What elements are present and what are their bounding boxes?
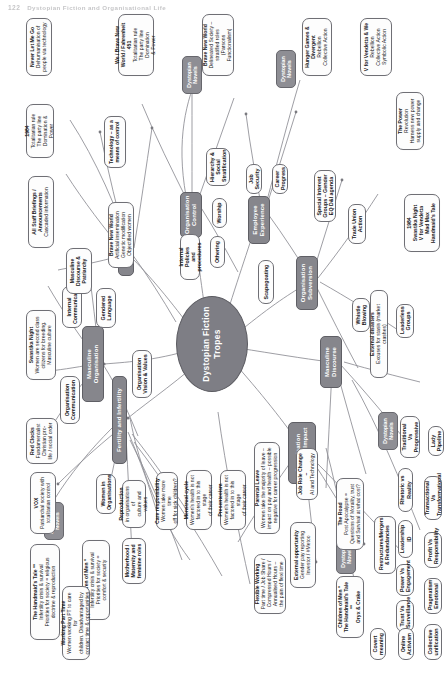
leaf-title: All Staff Briefings / Announcements — [31, 189, 43, 235]
leaf-flexible-working[interactable]: Flexible Working Part time / Job Share /… — [254, 554, 286, 614]
mid-trade-union-action[interactable]: Trade Union Action — [348, 204, 366, 244]
leaf-title: Masculine Discourse & Patriarchy — [69, 256, 87, 286]
mid-label: Rhetoric vs Reality — [399, 472, 411, 508]
leaf-masculine-discourse-patriarchy[interactable]: Masculine Discourse & Patriarchy — [66, 248, 92, 294]
leaf-brave-new-world-delineated-society[interactable]: Brave New World Delineated Society – str… — [202, 14, 234, 76]
leaf-title: Children of Men * The Handmaid's Tale **… — [337, 582, 361, 632]
mid-job-security[interactable]: Job Security — [246, 164, 262, 194]
mid-label: Trust Vs Surveillance — [399, 604, 411, 628]
mid-profit-vs-responsibility[interactable]: Profit Vs Responsibility — [424, 532, 442, 568]
branch-fertility-and-infertility[interactable]: Fertility and Infertility — [112, 376, 127, 464]
leaf-swastika-night[interactable]: Swastika Night Women are second class ci… — [26, 310, 56, 380]
mid-label: Hierarchy & Social Stratification — [209, 152, 227, 182]
chip-label: Dystopian Novels — [186, 60, 198, 90]
branch-masculine-discourse[interactable]: Masculine Discourse — [320, 336, 342, 388]
mid-covert-meaning[interactable]: Covert meaning — [370, 628, 386, 660]
chip-dystopian-novels-discourse[interactable]: Dystopian Novels — [378, 412, 398, 450]
mid-women-in-organisations[interactable]: Women in Organisations — [96, 474, 116, 514]
mid-rhetoric-vs-reality[interactable]: Rhetoric vs Reality — [398, 468, 413, 512]
mid-online-activism[interactable]: Online Activism — [398, 628, 414, 660]
mid-transactional-vs-transformational[interactable]: Transactional Vs Transformational — [424, 476, 442, 520]
leaf-menstrual-cycle[interactable]: Menstrual cycle Women's health is not fa… — [186, 470, 212, 530]
leaf-care-responsibility[interactable]: Care responsibility Women take more time… — [156, 472, 178, 530]
mid-whistle-blowing[interactable]: Whistle Blowing — [352, 298, 370, 332]
leaf-title: 1984 Swastika Night V for Vendetta Mad M… — [406, 203, 436, 243]
leaf-working-part-time[interactable]: Working Part Time Women working PT to ca… — [62, 586, 90, 660]
leaf-the-road[interactable]: The Road Post Apocalypse = Questions of … — [336, 478, 364, 550]
mid-label: Power Vs Engagement — [399, 568, 411, 592]
leaf-the-power[interactable]: The Power Revolution Harness new power s… — [396, 92, 424, 150]
mid-power-vs-engagement[interactable]: Power Vs Engagement — [396, 564, 414, 596]
leaf-all-staff-briefings[interactable]: All Staff Briefings / Announcements Casc… — [28, 176, 54, 248]
mid-career-progress[interactable]: Career Progress — [272, 164, 288, 194]
mid-hierarchy-social-stratification[interactable]: Hierarchy & Social Stratification — [206, 148, 230, 186]
mid-leaderless-groups[interactable]: Leaderless Groups — [396, 304, 414, 338]
mid-lady-pipeline[interactable]: Lady Pipeline — [428, 426, 444, 456]
leaf-parental-leave[interactable]: Parental Leave Women take the majority o… — [254, 442, 280, 534]
mid-othering[interactable]: Othering — [210, 236, 225, 268]
leaf-presenteeism[interactable]: Presenteeism Women's health is not facto… — [220, 470, 246, 530]
chip-dystopian-novels-subversion[interactable]: Dystopian Novels — [276, 50, 296, 88]
mid-label: Leaderless Groups — [399, 308, 411, 334]
mid-label: Special Interest Groups – Gender EQ D&I … — [316, 174, 334, 218]
chip-label: Dystopian Novels — [280, 54, 292, 84]
leaf-red-clocks[interactable]: Red Clocks Fundamentalist Christian pro-… — [26, 418, 58, 464]
leaf-restructures-mergers-redundancies[interactable]: Restructures/Mergers & Redundancies — [374, 516, 396, 574]
mid-organisation-vision-values[interactable]: Organisation Vision & Values — [132, 350, 152, 398]
mid-label: Covert meaning — [372, 632, 384, 656]
mid-label: Internal Policies and procedures — [178, 238, 203, 276]
mid-label: Trade Union Action — [351, 208, 363, 240]
leaf-never-let-me-go[interactable]: Never Let Me Go Dehumanisation of people… — [26, 18, 52, 76]
mid-collective-unification[interactable]: Collective unification — [424, 624, 442, 660]
leaf-reproduction[interactable]: Reproduction in organisations of culture… — [122, 480, 146, 528]
branch-label: Masculine Organisation — [86, 330, 100, 398]
leaf-title: Restructures/Mergers & Redundancies — [378, 517, 390, 570]
center-node-label: Dystopian Fiction Tropes — [201, 300, 223, 388]
leaf-1984[interactable]: 1984 Totalitarian rule The party line Do… — [26, 104, 54, 158]
leaf-body: The Handmaid's Tale ** Infertility crisi… — [33, 548, 57, 636]
mid-worship[interactable]: Worship — [212, 198, 227, 228]
branch-organisation-subversion[interactable]: Organisation Subversion — [296, 256, 318, 310]
leaf-title: Motherhood / Maternity and feminine role… — [124, 544, 142, 579]
leaf-external-disasters[interactable]: External disasters Excuses for stasis (m… — [370, 290, 388, 378]
mid-label: Traditional Vs Progressive — [401, 420, 419, 454]
leaf-brave-new-world-artificial-insemination[interactable]: Brave New World Artificial insemination … — [108, 202, 134, 268]
leaf-job-role-change[interactable]: Job Role Change – AI and Technology — [296, 448, 318, 500]
leaf-children-of-men-handmaids-tale-oryx-crake[interactable]: Children of Men * The Handmaid's Tale **… — [336, 576, 364, 638]
branch-label: Organisation Control — [184, 196, 198, 234]
branch-organisation-control[interactable]: Organisation Control — [180, 192, 202, 238]
mid-label: Scapegoating — [263, 264, 269, 300]
branch-masculine-organisation[interactable]: Masculine Organisation — [82, 326, 104, 402]
leaf-external-opportunity[interactable]: External opportunity Gender pay reportin… — [290, 522, 316, 588]
center-node[interactable]: Dystopian Fiction Tropes — [176, 296, 248, 392]
branch-label: Masculine Discourse — [324, 340, 338, 384]
mid-pragmatism-emotional[interactable]: Pragmatism Emotional — [424, 578, 442, 614]
leaf-technology-as-means-of-control[interactable]: Technology – as a means of control — [104, 116, 126, 168]
mid-scapegoating[interactable]: Scapegoating — [258, 260, 274, 304]
mid-label: Gendered Language — [100, 292, 112, 324]
leaf-motherhood-maternity[interactable]: Motherhood / Maternity and feminine role… — [122, 538, 146, 584]
branch-label: Employee Experience — [252, 200, 266, 240]
mid-label: Profit Vs Responsibility — [427, 536, 439, 564]
leaf-hunger-games-divergent[interactable]: Hunger Games & Divergent Rebellion Colle… — [302, 18, 332, 76]
leaf-vox[interactable]: VOX Patriarchal society with totalitaria… — [30, 472, 56, 534]
mid-special-interest-groups[interactable]: Special Interest Groups – Gender EQ D&I … — [314, 170, 336, 222]
mid-leadership-id[interactable]: Leadership ID — [398, 520, 413, 558]
leaf-the-handmaids-tale[interactable]: The Handmaid's Tale ** Infertility crisi… — [30, 544, 60, 640]
leaf-1984-swastika-night-v-for-vendetta[interactable]: 1984 Swastika Night V for Vendetta Mad M… — [404, 194, 440, 252]
mid-gendered-language[interactable]: Gendered Language — [96, 288, 116, 328]
leaf-we-brave-new-world-fahrenheit-451[interactable]: We / Brave New World / Fahrenheit 451 To… — [118, 14, 154, 76]
mid-organisation-communication[interactable]: Organisation Communication — [60, 376, 80, 424]
mid-label: Lady Pipeline — [430, 430, 442, 452]
branch-employee-experience[interactable]: Employee Experience — [248, 196, 270, 244]
mid-traditional-vs-progressive[interactable]: Traditional Vs Progressive — [400, 416, 420, 458]
chip-dystopian-novels-culture[interactable]: Dystopian Novels — [182, 56, 202, 94]
mid-internal-policies-procedures[interactable]: Internal Policies and procedures — [180, 234, 200, 280]
leaf-title: Job Role Change – — [297, 453, 309, 495]
leaf-v-for-vendetta-and-we[interactable]: V for Vendetta & We Rebellion Collective… — [360, 18, 392, 76]
leaf-title: Technology – as a means of control — [108, 120, 120, 164]
mid-label: Pragmatism Emotional — [427, 582, 439, 610]
mid-label: Othering — [214, 240, 220, 264]
mid-label: Worship — [216, 202, 222, 224]
